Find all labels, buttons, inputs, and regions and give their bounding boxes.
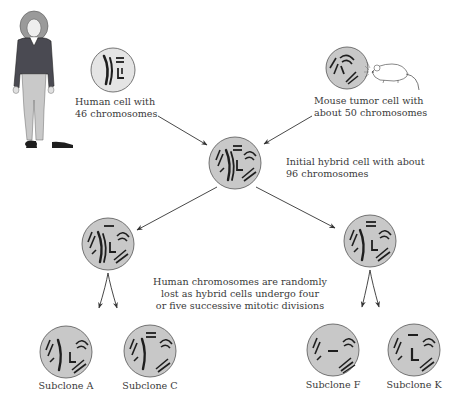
note-line1: Human chromosomes are randomly <box>140 276 340 288</box>
hybrid-cell-label-line1: Initial hybrid cell with about <box>286 156 425 168</box>
arrow-hybrid-to-left <box>137 187 217 230</box>
subclone-k-cell-icon <box>388 324 440 376</box>
note-line3: or five successive mitotic divisions <box>140 300 340 312</box>
human-cell-label-line2: 46 chromosomes <box>75 108 157 120</box>
fork-arrows-right <box>362 270 379 307</box>
intermediate-cell-left-icon <box>82 218 134 270</box>
subclone-f-cell-icon <box>307 324 359 376</box>
mouse-cell-label-line1: Mouse tumor cell with <box>314 95 427 107</box>
fork-arrows-left <box>99 273 117 308</box>
diagram-graphics <box>0 0 450 395</box>
arrow-mouse-to-hybrid <box>264 116 312 144</box>
arrow-hybrid-to-right <box>256 187 335 228</box>
human-cell-label: Human cell with 46 chromosomes <box>75 96 157 120</box>
subclone-a-cell-icon <box>40 326 92 378</box>
subclone-f-label: Subclone F <box>298 379 368 391</box>
mouse-cell-label-line2: about 50 chromosomes <box>314 107 427 119</box>
woman-figure-icon <box>13 11 73 148</box>
intermediate-cell-right-icon <box>344 215 396 267</box>
arrow-human-to-hybrid <box>158 116 207 145</box>
mouse-tumor-cell-icon <box>326 47 368 89</box>
mouse-cell-label: Mouse tumor cell with about 50 chromosom… <box>314 95 427 119</box>
mouse-icon <box>364 62 419 90</box>
note-line2: lost as hybrid cells undergo four <box>140 288 340 300</box>
human-cell-label-line1: Human cell with <box>75 96 157 108</box>
human-cell-icon <box>91 48 135 92</box>
subclone-c-label: Subclone C <box>115 380 185 392</box>
subclone-k-label: Subclone K <box>379 379 449 391</box>
hybrid-cell-icon <box>209 137 261 189</box>
subclone-c-cell-icon <box>124 325 176 377</box>
hybrid-cell-label: Initial hybrid cell with about 96 chromo… <box>286 156 425 180</box>
chromosome-loss-note: Human chromosomes are randomly lost as h… <box>140 276 340 312</box>
hybrid-cell-label-line2: 96 chromosomes <box>286 168 425 180</box>
somatic-cell-hybrid-diagram: Human cell with 46 chromosomes Mouse tum… <box>0 0 450 395</box>
subclone-a-label: Subclone A <box>31 380 101 392</box>
